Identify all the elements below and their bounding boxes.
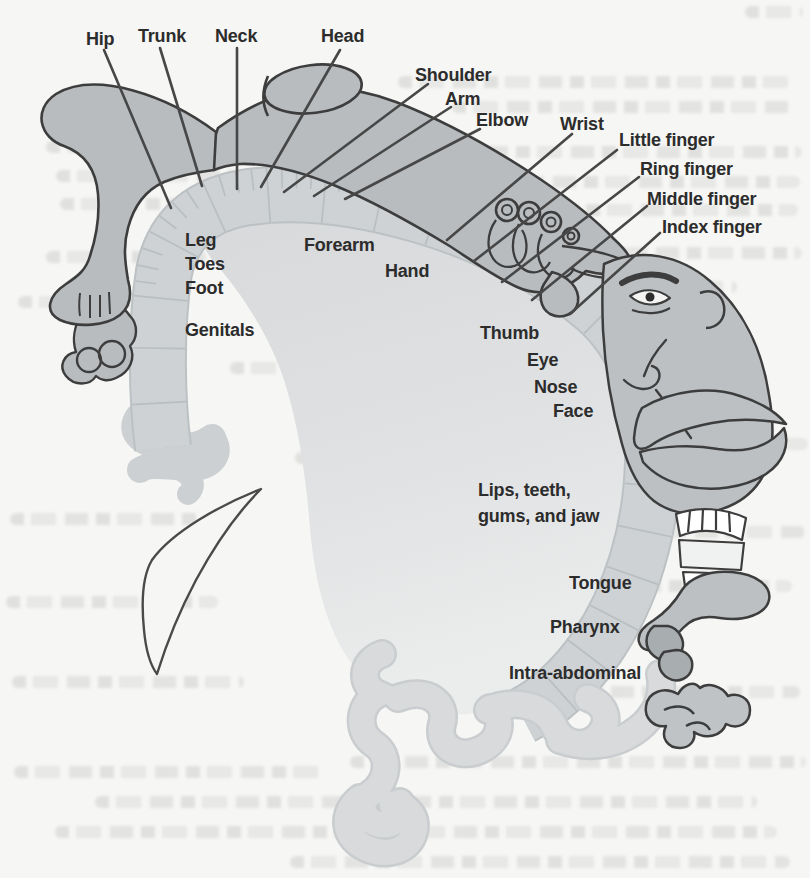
label-arm: Arm (445, 88, 480, 111)
label-nose: Nose (534, 376, 577, 399)
eye-pupil (646, 293, 655, 302)
label-eye: Eye (527, 349, 558, 372)
label-lips-teeth-gums-jaw: Lips, teeth, gums, and jaw (478, 477, 599, 529)
gums (679, 540, 744, 570)
label-forearm: Forearm (304, 234, 375, 257)
label-wrist: Wrist (560, 113, 604, 136)
label-foot: Foot (185, 276, 225, 300)
book-page: Hip Trunk Neck Head Shoulder Arm Elbow W… (0, 0, 810, 878)
label-thumb: Thumb (480, 322, 539, 345)
label-head: Head (321, 25, 364, 48)
label-middle-finger: Middle finger (647, 188, 756, 211)
label-hip: Hip (86, 28, 114, 51)
label-little-finger: Little finger (619, 129, 714, 152)
sulcus-outline (143, 489, 261, 674)
label-shoulder: Shoulder (415, 64, 491, 87)
label-ring-finger: Ring finger (640, 158, 733, 181)
label-toes: Toes (185, 252, 225, 276)
label-trunk: Trunk (138, 25, 186, 48)
label-leg-toes-foot: Leg Toes Foot (185, 228, 225, 300)
label-index-finger: Index finger (662, 216, 762, 239)
label-intra-abdominal: Intra-abdominal (509, 662, 641, 685)
label-genitals: Genitals (185, 319, 254, 342)
label-neck: Neck (215, 25, 257, 48)
intra-abdominal-viscera (646, 684, 750, 748)
label-hand: Hand (385, 260, 429, 283)
label-tongue: Tongue (569, 572, 631, 595)
label-face: Face (553, 400, 593, 423)
label-leg: Leg (185, 228, 225, 252)
label-pharynx: Pharynx (550, 616, 620, 639)
label-elbow: Elbow (476, 109, 528, 132)
